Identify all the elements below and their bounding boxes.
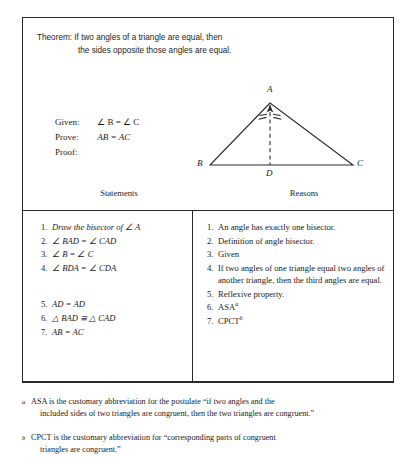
angle-mark-right-icon <box>273 114 281 115</box>
footnote-a: a ASA is the customary abbreviation for … <box>22 396 394 421</box>
reason-row: 2. Definition of angle bisector. <box>207 235 385 247</box>
statement-row: 2. ∠ BAD = ∠ CAD <box>41 235 191 247</box>
reason-text: ASAa <box>218 301 385 313</box>
prove-value: AB = AC <box>97 132 130 142</box>
reason-row: 4. If two angles of one triangle equal t… <box>207 262 385 287</box>
reason-text: Reflexive property. <box>218 288 385 300</box>
theorem-text-line-1: If two angles of a triangle are equal, t… <box>74 33 222 42</box>
statement-row: 6. △ BAD ≅ △ CAD <box>41 312 191 324</box>
reason-number: 6. <box>207 301 218 313</box>
vertex-label-c: C <box>357 158 363 168</box>
theorem-line-2: the sides opposite those angles are equa… <box>37 45 381 58</box>
statement-row: 7. AB = AC <box>41 326 191 338</box>
vertex-label-d: D <box>266 168 273 178</box>
reason-text: Given <box>218 248 385 260</box>
theorem-line-1: Theorem: If two angles of a triangle are… <box>37 32 381 45</box>
reason-number: 3. <box>207 248 218 260</box>
given-prove-block: Given: ∠ B = ∠ C Prove: AB = AC Proof: <box>55 117 205 162</box>
footnote-a-line-1: ASA is the customary abbreviation for th… <box>31 396 394 408</box>
theorem-block: Theorem: If two angles of a triangle are… <box>37 32 381 57</box>
statements-spacer <box>41 275 191 298</box>
column-header-statements: Statements <box>23 188 215 198</box>
statement-text: ∠ BAD = ∠ CAD <box>52 235 191 247</box>
reason-row: 6. ASAa <box>207 301 385 313</box>
statement-text: AB = AC <box>52 326 191 338</box>
triangle-figure: A B C D <box>201 82 381 194</box>
footnote-marker-b: b <box>240 314 243 321</box>
statements-column: 1. Draw the bisector of ∠ A 2. ∠ BAD = ∠… <box>41 221 191 339</box>
reason-number: 4. <box>207 262 218 287</box>
reason-number: 2. <box>207 235 218 247</box>
given-label: Given: <box>55 117 95 127</box>
statement-number: 1. <box>41 221 52 233</box>
footnote-a-text: ASA is the customary abbreviation for th… <box>31 396 394 421</box>
statement-row: 3. ∠ B = ∠ C <box>41 248 191 260</box>
given-row: Given: ∠ B = ∠ C <box>55 117 205 132</box>
reason-text: CPCTb <box>218 315 385 327</box>
angle-mark-left-lower-icon <box>259 117 267 119</box>
table-top-rule <box>23 210 393 211</box>
statement-text: ∠ B = ∠ C <box>52 248 191 260</box>
vertex-label-a: A <box>267 84 273 94</box>
footnote-b: b CPCT is the customary abbreviation for… <box>22 432 394 457</box>
footnote-b-marker: b <box>22 432 31 457</box>
proof-label: Proof: <box>55 147 95 157</box>
reason-number: 5. <box>207 288 218 300</box>
proof-card: Theorem: If two angles of a triangle are… <box>22 17 394 383</box>
proof-row: Proof: <box>55 147 205 162</box>
table-column-headers: Statements Reasons <box>23 185 393 211</box>
footnote-a-line-2: included sides of two triangles are cong… <box>31 408 394 420</box>
vertex-label-b: B <box>197 158 203 168</box>
reason-text: If two angles of one triangle equal two … <box>218 262 385 287</box>
statement-text: Draw the bisector of ∠ A <box>52 221 191 233</box>
reason-row: 7. CPCTb <box>207 315 385 327</box>
statement-text: AD = AD <box>52 298 191 310</box>
angle-mark-right-lower-icon <box>273 117 281 119</box>
statement-number: 2. <box>41 235 52 247</box>
reason-text: Definition of angle bisector. <box>218 235 385 247</box>
footnote-b-text: CPCT is the customary abbreviation for “… <box>31 432 394 457</box>
reason-text: An angle has exactly one bisector. <box>218 221 385 233</box>
reason-number: 1. <box>207 221 218 233</box>
theorem-text-line-2: the sides opposite those angles are equa… <box>78 46 231 55</box>
statement-number: 5. <box>41 298 52 310</box>
statement-number: 3. <box>41 248 52 260</box>
reason-row: 5. Reflexive property. <box>207 288 385 300</box>
reasons-column: 1. An angle has exactly one bisector. 2.… <box>207 221 385 329</box>
triangle-svg <box>201 82 381 194</box>
statement-row: 4. ∠ BDA = ∠ CDA <box>41 262 191 274</box>
reason-text-main: CPCT <box>218 316 240 326</box>
theorem-label: Theorem: <box>37 32 72 45</box>
statement-number: 4. <box>41 262 52 274</box>
statement-row: 5. AD = AD <box>41 298 191 310</box>
statement-row: 1. Draw the bisector of ∠ A <box>41 221 191 233</box>
statement-number: 7. <box>41 326 52 338</box>
table-column-divider <box>192 210 193 382</box>
reason-row: 3. Given <box>207 248 385 260</box>
footnote-marker-a: a <box>235 301 238 308</box>
reason-number: 7. <box>207 315 218 327</box>
footnote-b-line-2: triangles are congruent.” <box>31 444 394 456</box>
reason-text-main: ASA <box>218 302 235 312</box>
statement-text: ∠ BDA = ∠ CDA <box>52 262 191 274</box>
column-header-reasons: Reasons <box>215 188 393 198</box>
statement-number: 6. <box>41 312 52 324</box>
footnote-a-marker: a <box>22 396 31 421</box>
reason-row: 1. An angle has exactly one bisector. <box>207 221 385 233</box>
given-value: ∠ B = ∠ C <box>97 117 139 127</box>
footnotes-block: a ASA is the customary abbreviation for … <box>22 396 394 468</box>
table-bottom-rule <box>23 381 393 382</box>
prove-row: Prove: AB = AC <box>55 132 205 147</box>
prove-label: Prove: <box>55 132 95 142</box>
angle-mark-left-icon <box>260 114 268 115</box>
statement-text: △ BAD ≅ △ CAD <box>52 312 191 324</box>
footnote-b-line-1: CPCT is the customary abbreviation for “… <box>31 432 394 444</box>
triangle-outline <box>210 103 353 165</box>
